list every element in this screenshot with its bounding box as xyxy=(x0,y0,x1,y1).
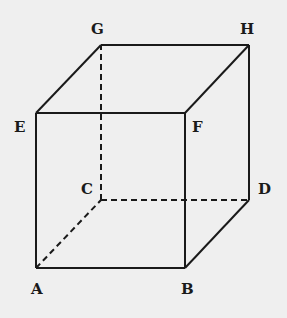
background xyxy=(0,0,287,318)
vertex-label-h: H xyxy=(240,20,254,38)
vertex-label-g: G xyxy=(91,20,104,38)
vertex-label-e: E xyxy=(14,118,25,136)
vertex-label-c: C xyxy=(81,180,93,198)
vertex-label-a: A xyxy=(30,280,43,298)
vertex-label-d: D xyxy=(258,180,271,198)
cube-diagram: G H E F C D A B xyxy=(0,0,287,318)
vertex-label-f: F xyxy=(192,118,203,136)
vertex-label-b: B xyxy=(181,280,194,298)
